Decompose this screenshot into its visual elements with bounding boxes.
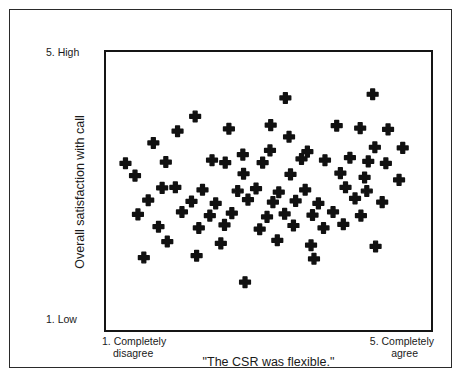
scatter-point [186, 196, 197, 207]
scatter-point [170, 182, 181, 193]
scatter-point [190, 111, 201, 122]
scatter-point [359, 172, 370, 183]
scatter-point [220, 157, 231, 168]
scatter-point [210, 198, 221, 209]
scatter-point [328, 207, 339, 218]
scatter-point [172, 126, 183, 137]
scatter-point [331, 120, 342, 131]
scatter-point [363, 156, 374, 167]
scatter-point [243, 194, 254, 205]
scatter-point [394, 175, 405, 186]
scatter-point [224, 123, 235, 134]
scatter-point [370, 241, 381, 252]
scatter-point [138, 252, 149, 263]
scatter-point [279, 208, 290, 219]
scatter-point [251, 183, 262, 194]
x-axis-title: "The CSR was flexible." [104, 355, 433, 369]
scatter-point [215, 238, 226, 249]
scatter-point [226, 208, 237, 219]
x-axis-right-label-line1: 5. Completely [370, 335, 434, 347]
scatter-point [272, 235, 283, 246]
scatter-point [355, 123, 366, 134]
scatter-point [162, 236, 173, 247]
scatter-point [240, 277, 251, 288]
scatter-point [318, 223, 329, 234]
scatter-point [197, 184, 208, 195]
scatter-point [383, 124, 394, 135]
scatter-point [130, 170, 141, 181]
scatter-point [265, 120, 276, 131]
scatter-point [153, 221, 164, 232]
scatter-point [157, 183, 168, 194]
scatter-plot-canvas [106, 52, 431, 330]
scatter-point [204, 210, 215, 221]
figure-outer-border: Overall satisfaction with call 5. High 1… [9, 9, 452, 368]
scatter-point [160, 157, 171, 168]
scatter-point [120, 158, 131, 169]
scatter-point [340, 182, 351, 193]
scatter-point [238, 168, 249, 179]
y-axis-low-label: 1. Low [46, 313, 77, 325]
scatter-point [133, 209, 144, 220]
scatter-point [381, 158, 392, 169]
scatter-point [397, 143, 408, 154]
scatter-point [335, 168, 346, 179]
scatter-point [237, 149, 248, 160]
scatter-point [288, 220, 299, 231]
scatter-point [377, 197, 388, 208]
scatter-point [290, 196, 301, 207]
scatter-point [350, 193, 361, 204]
scatter-point [280, 93, 291, 104]
scatter-markers-group [120, 89, 408, 288]
scatter-point [193, 223, 204, 234]
plot-area [104, 50, 433, 332]
scatter-point [254, 224, 265, 235]
scatter-point [191, 250, 202, 261]
scatter-point [306, 240, 317, 251]
y-axis-high-label: 5. High [46, 46, 79, 58]
x-axis-left-label-line1: 1. Completely [102, 335, 166, 347]
scatter-point [177, 207, 188, 218]
scatter-point [143, 195, 154, 206]
scatter-point [262, 212, 273, 223]
scatter-point [257, 157, 268, 168]
scatter-point [219, 220, 230, 231]
scatter-point [284, 131, 295, 142]
scatter-point [307, 210, 318, 221]
scatter-point [273, 187, 284, 198]
scatter-point [370, 142, 381, 153]
scatter-point [361, 186, 372, 197]
scatter-point [367, 89, 378, 100]
scatter-point [148, 138, 159, 149]
scatter-point [309, 253, 320, 264]
scatter-point [285, 169, 296, 180]
scatter-point [207, 155, 218, 166]
y-axis-title: Overall satisfaction with call [73, 92, 87, 292]
scatter-point [300, 184, 311, 195]
scatter-point [345, 152, 356, 163]
scatter-point [356, 210, 367, 221]
scatter-point [313, 198, 324, 209]
scatter-point [320, 155, 331, 166]
scatter-point [268, 197, 279, 208]
scatter-point [338, 219, 349, 230]
scatter-point [265, 145, 276, 156]
scatter-point [232, 186, 243, 197]
